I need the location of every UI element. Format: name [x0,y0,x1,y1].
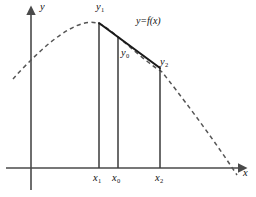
point-label-y2: y2 [160,57,168,68]
point-label-y1-base: y [96,1,101,12]
tick-label-x2-sub: 2 [160,177,164,184]
point-label-y2-base: y [160,56,165,67]
figure-canvas [0,0,256,197]
point-label-y0-sub: 0 [126,52,130,59]
tick-label-x2-base: x [155,172,160,183]
point-label-y0-base: y [121,47,126,58]
y-axis-arrow-icon [26,6,35,16]
point-label-y2-sub: 2 [165,61,169,68]
figure-container: y x y1 y0 y2 y=f(x) x1 x0 x2 [0,0,256,197]
tick-label-x1-sub: 1 [98,177,102,184]
tick-label-x0: x0 [112,173,120,184]
tick-label-x1: x1 [93,173,101,184]
tick-label-x1-base: x [93,172,98,183]
function-curve-dashed [13,22,237,175]
x-axis-label: x [243,168,248,179]
point-label-y1: y1 [96,2,104,13]
tick-label-x0-base: x [112,172,117,183]
tick-label-x2: x2 [155,173,163,184]
point-label-y0: y0 [121,48,129,59]
chord-line-y1-y2 [99,23,160,68]
tick-label-x0-sub: 0 [117,177,121,184]
function-label: y=f(x) [136,16,160,26]
y-axis-label: y [40,2,45,13]
point-label-y1-sub: 1 [101,6,105,13]
